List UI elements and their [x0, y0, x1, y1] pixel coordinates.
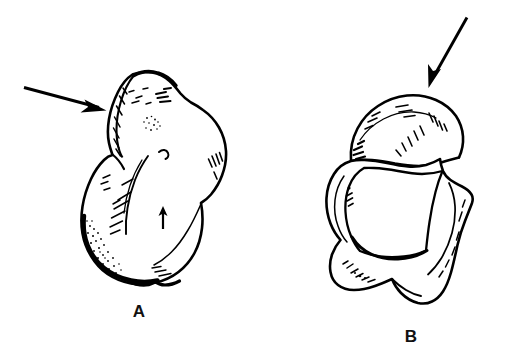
panel-label-b: B	[398, 328, 424, 345]
figure-container: A B	[0, 0, 523, 355]
figure-illustration	[0, 0, 523, 355]
panel-label-a: A	[126, 303, 152, 320]
